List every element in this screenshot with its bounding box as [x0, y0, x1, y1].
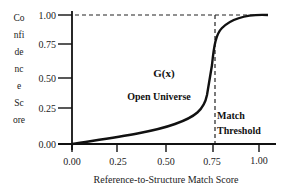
y-tick-label: 0.00	[39, 139, 57, 150]
open-universe-annotation: Open Universe	[127, 91, 191, 102]
y-ticks	[58, 15, 72, 108]
y-tick-label: 0.50	[39, 73, 57, 84]
x-tick-label: 1.00	[250, 155, 268, 166]
x-axis-label: Reference-to-Structure Match Score	[94, 174, 239, 185]
gx-annotation: G(x)	[153, 67, 175, 80]
x-tick-label: 0.75	[203, 156, 221, 167]
x-tick-label: 0.00	[63, 156, 81, 167]
x-tick-label: 0.50	[157, 156, 175, 167]
threshold-annotation: Threshold	[217, 125, 261, 136]
match-annotation: Match	[217, 110, 245, 121]
chart-canvas: 1.00 0.75 0.50 0.25 0.00 0.00 0.25 0.50 …	[0, 0, 291, 190]
x-tick-label: 0.25	[109, 156, 127, 167]
y-tick-label: 0.75	[39, 39, 57, 50]
x-ticks	[72, 144, 259, 152]
y-tick-label: 0.25	[39, 103, 57, 114]
y-tick-label: 1.00	[39, 10, 57, 21]
